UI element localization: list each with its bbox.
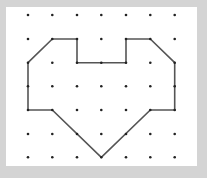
grid-dot [100, 133, 103, 136]
grid-dot [125, 109, 128, 112]
grid-dot [51, 61, 54, 64]
grid-dot [125, 156, 128, 159]
grid-dot [76, 156, 79, 159]
grid-dot [173, 85, 176, 88]
grid-dot [51, 38, 54, 41]
grid-dot [149, 156, 152, 159]
grid-dot [27, 85, 30, 88]
grid-dot [51, 85, 54, 88]
grid-dot [173, 14, 176, 17]
grid-dot [173, 61, 176, 64]
grid-dot [100, 156, 103, 159]
grid-dot [51, 156, 54, 159]
grid-dot [51, 109, 54, 112]
grid-dot [27, 109, 30, 112]
grid-dot [51, 14, 54, 17]
grid-dot [76, 109, 79, 112]
grid-dot [149, 61, 152, 64]
grid-dot [125, 14, 128, 17]
grid-dot [149, 133, 152, 136]
grid-dot [100, 85, 103, 88]
grid-dot [125, 133, 128, 136]
grid-dot [27, 133, 30, 136]
grid-dot [76, 85, 79, 88]
grid-dot [149, 38, 152, 41]
grid-dot [76, 61, 79, 64]
heart-polygon [28, 39, 175, 157]
grid-dot [149, 14, 152, 17]
dot-grid-diagram [0, 0, 207, 178]
grid-dot [149, 85, 152, 88]
grid-dot [76, 38, 79, 41]
grid-dot [100, 61, 103, 64]
grid-dot [100, 109, 103, 112]
grid-dot [173, 156, 176, 159]
grid-dot [173, 38, 176, 41]
grid-dot [149, 109, 152, 112]
grid-dot [27, 61, 30, 64]
grid-dot [173, 133, 176, 136]
grid-dot [27, 156, 30, 159]
grid-dot [173, 109, 176, 112]
grid-dot [125, 38, 128, 41]
grid-dot [27, 14, 30, 17]
grid-dot [125, 85, 128, 88]
grid-dot [100, 38, 103, 41]
grid-dot [76, 133, 79, 136]
grid-dot [76, 14, 79, 17]
grid-dot [27, 38, 30, 41]
grid-dot [100, 14, 103, 17]
grid-dot [125, 61, 128, 64]
grid-dot [51, 133, 54, 136]
